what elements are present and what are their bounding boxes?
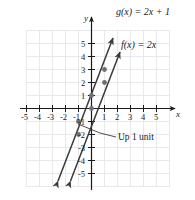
- x-tick-label--2: -2: [60, 113, 67, 122]
- y-tick-label-4: 4: [81, 53, 85, 62]
- y-tick-label-1: 1: [81, 92, 85, 101]
- point-g-1-3: [102, 67, 107, 72]
- annotation-up-1-unit: Up 1 unit: [118, 133, 154, 143]
- point-f-0-0: [89, 106, 94, 111]
- y-tick-label-3: 3: [81, 66, 85, 75]
- x-tick-label--5: -5: [21, 113, 28, 122]
- point-f-1-2: [102, 80, 107, 85]
- x-tick-label-4: 4: [141, 113, 145, 122]
- x-tick-label-1: 1: [102, 113, 106, 122]
- x-tick-label-3: 3: [128, 113, 132, 122]
- x-tick-label-5: 5: [154, 113, 158, 122]
- series-label-g: g(x) = 2x + 1: [116, 7, 170, 17]
- y-tick-label--4: -4: [78, 157, 85, 166]
- coordinate-plane: [0, 0, 195, 200]
- x-axis-label: x: [176, 110, 180, 119]
- y-tick-label--2: -2: [78, 131, 85, 140]
- y-tick-label--3: -3: [78, 144, 85, 153]
- y-tick-label--5: -5: [78, 170, 85, 179]
- point-g-0-1: [89, 93, 94, 98]
- x-tick-label-2: 2: [115, 113, 119, 122]
- graph-figure: -5 -4 -3 -2 -1 1 2 3 4 5 5 4 3 2 1 -1 -2…: [0, 0, 195, 200]
- series-label-f: f(x) = 2x: [121, 40, 156, 50]
- y-tick-label-5: 5: [81, 40, 85, 49]
- x-tick-label--3: -3: [47, 113, 54, 122]
- x-tick-label--4: -4: [34, 113, 41, 122]
- y-tick-label--1: -1: [78, 118, 85, 127]
- y-tick-label-2: 2: [81, 79, 85, 88]
- y-axis-label: y: [84, 14, 88, 23]
